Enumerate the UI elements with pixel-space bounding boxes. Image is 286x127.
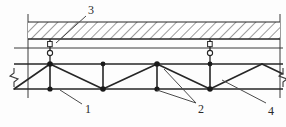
panel-point-node [208, 62, 213, 67]
web-diagonal [50, 64, 103, 89]
web-diagonal [210, 64, 262, 89]
structural-section-figure [0, 0, 286, 127]
hanger-upper-eye-icon [48, 42, 53, 47]
panel-point-node [154, 61, 160, 67]
web-diagonal [14, 64, 50, 89]
panel-point-node [47, 61, 53, 67]
suspension-hangers [47, 39, 212, 64]
break-line-left [10, 68, 18, 87]
break-marks [10, 68, 286, 87]
concrete-slab [28, 22, 280, 39]
callout-label-4: 4 [268, 105, 274, 117]
callout-label-1: 1 [85, 103, 91, 115]
suspension-hanger-right [207, 39, 212, 64]
drawing-canvas: 3 1 2 4 [0, 0, 286, 127]
panel-point-node [47, 86, 52, 91]
panel-point-node [101, 62, 106, 67]
web-diagonal [103, 64, 157, 89]
truss-web-diagonals [14, 64, 283, 89]
hanger-turnbuckle-ring-icon [47, 50, 52, 55]
suspension-hanger-left [47, 39, 52, 64]
leader-line-1 [60, 90, 82, 104]
callout-label-3: 3 [88, 4, 94, 16]
slab-hatch [28, 22, 280, 39]
callout-label-2: 2 [198, 103, 204, 115]
leader-line-4 [222, 80, 266, 103]
web-diagonal [157, 64, 210, 89]
hanger-upper-eye-icon [208, 42, 213, 47]
panel-point-node [100, 86, 106, 92]
hanger-turnbuckle-ring-icon [207, 50, 212, 55]
panel-point-node [207, 86, 213, 92]
